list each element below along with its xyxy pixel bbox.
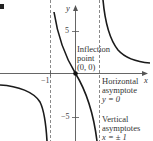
y-axis-arrow-icon: [73, 5, 78, 11]
inflection-annotation: Inflection point (0, 0): [77, 45, 110, 72]
inflection-line-3: (0, 0): [77, 63, 110, 72]
x-axis-label: x: [144, 76, 148, 85]
vertical-asymptotes-annotation: Vertical asymptotes x = ± 1: [102, 115, 140, 141]
horizontal-asymptote-annotation: Horizontal asymptote y = 0: [102, 77, 138, 104]
curve-left-branch: [0, 85, 47, 141]
vertical-line-3: x = ± 1: [102, 133, 140, 141]
x-tick-label-neg1: −1: [41, 76, 50, 85]
y-tick-label-neg5: −5: [61, 112, 70, 121]
curve-right-branch: [103, 0, 150, 63]
y-axis-label: y: [66, 4, 70, 13]
horizontal-line-3: y = 0: [102, 95, 138, 104]
y-tick-label-5: 5: [65, 26, 69, 35]
